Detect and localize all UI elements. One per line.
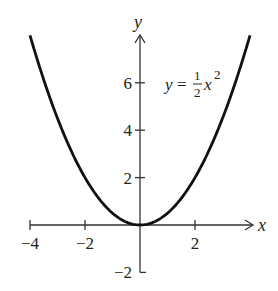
y-tick-label: 6 bbox=[124, 74, 133, 93]
fraction-denominator: 2 bbox=[194, 85, 201, 100]
x-tick-label: 2 bbox=[191, 234, 200, 253]
equation-annotation: y = 1 2 x 2 bbox=[163, 67, 221, 100]
plot-area: −4−22−2246 x y y = 1 2 x 2 bbox=[0, 0, 278, 291]
equation-equals: = bbox=[177, 75, 187, 94]
ticks: −4−22−2246 bbox=[21, 74, 199, 283]
equation-lhs: y bbox=[163, 75, 173, 94]
fraction-numerator: 1 bbox=[194, 68, 201, 83]
x-tick-label: −4 bbox=[21, 234, 40, 253]
x-axis-label: x bbox=[257, 215, 266, 235]
equation-variable: x bbox=[203, 75, 212, 94]
x-tick-label: −2 bbox=[76, 234, 94, 253]
y-axis-label: y bbox=[132, 12, 142, 32]
y-tick-label: −2 bbox=[114, 263, 132, 282]
y-tick-label: 4 bbox=[124, 121, 133, 140]
parabola-chart: −4−22−2246 x y y = 1 2 x 2 bbox=[0, 0, 278, 291]
y-tick-label: 2 bbox=[124, 169, 133, 188]
equation-exponent: 2 bbox=[214, 67, 221, 82]
